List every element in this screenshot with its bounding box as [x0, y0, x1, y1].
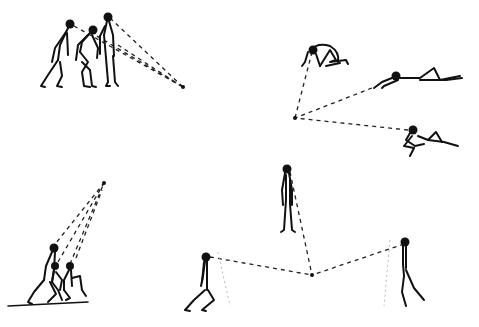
sight-line	[58, 183, 104, 262]
kneeling-group-bottom-left	[8, 181, 106, 306]
sight-line	[70, 183, 104, 264]
sight-line	[295, 118, 408, 130]
sight-line	[312, 244, 404, 275]
reclining-group-top-right	[293, 45, 462, 156]
focal-point	[293, 116, 297, 120]
stick-figure	[404, 126, 458, 157]
stick-figure	[64, 262, 86, 300]
sight-line	[52, 183, 104, 248]
standing-group-top-left	[41, 13, 185, 90]
stick-figure	[185, 253, 214, 312]
sight-line	[295, 52, 312, 118]
focal-point	[181, 85, 185, 89]
stick-figure	[100, 13, 118, 87]
sight-line	[210, 257, 312, 275]
stick-figure	[76, 26, 98, 88]
sight-line	[118, 45, 175, 82]
stick-figure	[41, 20, 75, 88]
sight-line	[110, 18, 183, 87]
stick-figure	[374, 68, 462, 88]
triangle-group-bottom-center	[185, 165, 424, 312]
sight-line	[295, 88, 372, 118]
illustration-canvas	[0, 0, 479, 327]
stick-figure	[281, 165, 295, 233]
focal-point	[310, 273, 314, 277]
focal-point	[102, 181, 106, 185]
sight-line	[290, 172, 312, 275]
stick-figure	[401, 238, 425, 307]
